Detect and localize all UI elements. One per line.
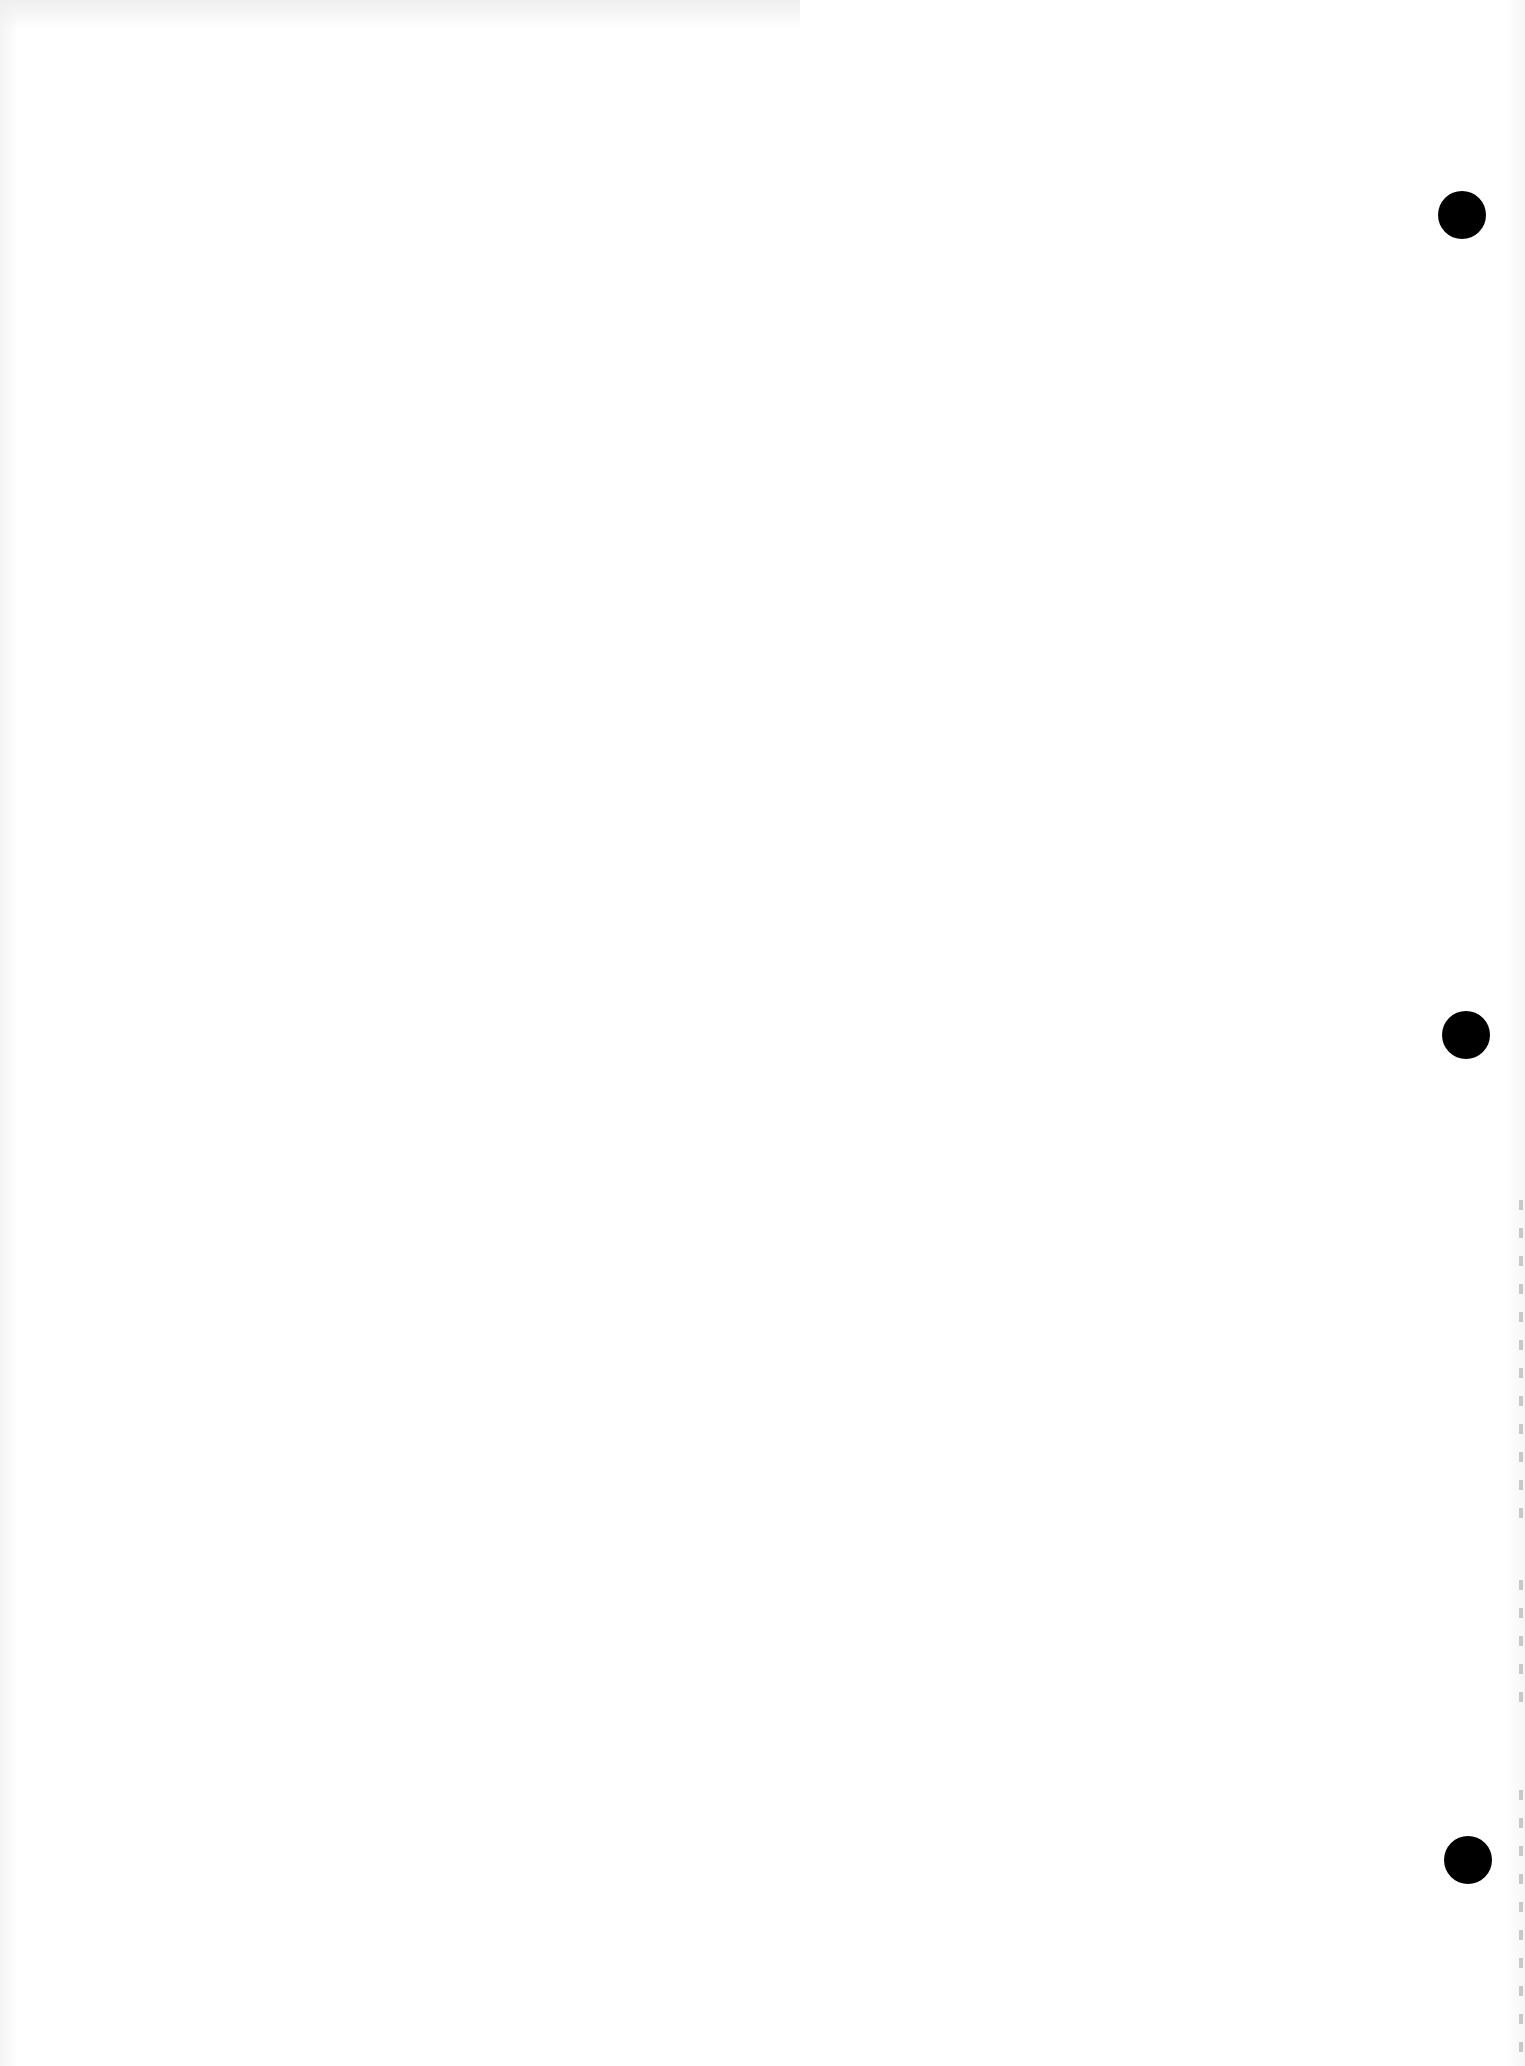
punch-hole-icon [1438, 191, 1486, 239]
scan-shadow [0, 0, 800, 30]
scanned-page [0, 0, 1525, 2066]
punch-hole-icon [1444, 1836, 1492, 1884]
punch-hole-icon [1442, 1011, 1490, 1059]
scan-edge-mark [1519, 1580, 1523, 1720]
scan-edge-mark [1519, 1790, 1523, 2060]
scan-edge-mark [1519, 1200, 1523, 1530]
